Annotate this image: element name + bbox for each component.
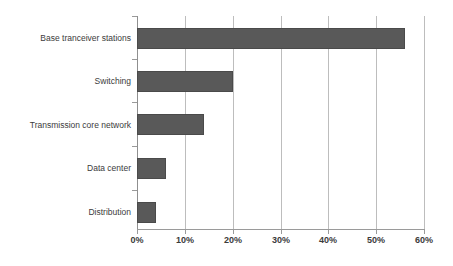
x-axis-label-10: 10% <box>165 236 205 245</box>
category-label-transmission-core-network: Transmission core network <box>0 121 131 130</box>
category-label-switching: Switching <box>0 77 131 86</box>
category-label-base-tranceiver-stations: Base tranceiver stations <box>0 34 131 43</box>
bar-chart: Base tranceiver stations Switching Trans… <box>0 0 453 266</box>
x-tick-30 <box>281 229 282 234</box>
category-tick-4 <box>132 190 137 191</box>
x-tick-20 <box>233 229 234 234</box>
x-axis-label-40: 40% <box>308 236 348 245</box>
category-tick-2 <box>132 102 137 103</box>
category-tick-3 <box>132 146 137 147</box>
x-axis-label-0: 0% <box>117 236 157 245</box>
x-axis-label-60: 60% <box>404 236 444 245</box>
gridline-60 <box>424 16 425 229</box>
bar-data-center <box>137 158 166 179</box>
category-label-data-center: Data center <box>0 164 131 173</box>
bar-base-tranceiver-stations <box>137 28 405 49</box>
category-tick-top <box>132 16 137 17</box>
category-label-distribution: Distribution <box>0 208 131 217</box>
category-tick-1 <box>132 59 137 60</box>
x-tick-60 <box>424 229 425 234</box>
x-tick-40 <box>328 229 329 234</box>
x-axis-label-30: 30% <box>261 236 301 245</box>
x-axis-label-20: 20% <box>213 236 253 245</box>
bar-transmission-core-network <box>137 114 204 135</box>
bar-distribution <box>137 202 156 223</box>
x-tick-50 <box>376 229 377 234</box>
x-axis-label-50: 50% <box>356 236 396 245</box>
x-tick-10 <box>185 229 186 234</box>
x-tick-0 <box>137 229 138 234</box>
bar-switching <box>137 71 233 92</box>
